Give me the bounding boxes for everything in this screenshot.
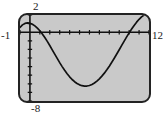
y-max-label: 2: [33, 1, 39, 12]
x-min-label: -1: [1, 30, 10, 41]
y-min-label: -8: [31, 103, 40, 114]
axes-group: [20, 15, 149, 101]
curve-group: [20, 15, 149, 86]
plot-canvas: [20, 15, 149, 101]
x-max-label: 12: [152, 30, 163, 41]
calculator-graph-figure: 2 -1 12 -8: [0, 0, 168, 117]
calculator-screen: [18, 13, 151, 103]
curve-path: [20, 15, 149, 86]
